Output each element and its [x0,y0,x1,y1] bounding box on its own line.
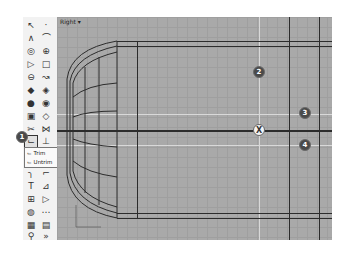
callout-3: 3 [299,107,311,119]
mesh-edit-icon[interactable]: ◇ [40,111,52,122]
profile-curve-geometry [57,17,332,240]
trim-flyout-menu: ⌙ Trim ⌙ Untrim [24,147,58,168]
callout-1: 1 [16,131,28,143]
analyze-icon[interactable]: ⚲ [25,231,37,242]
polygon-icon[interactable]: ▷ [25,59,37,70]
solid-icon[interactable]: ● [25,98,37,109]
callout-2: 2 [253,66,265,78]
circle-icon[interactable]: ◎ [25,46,37,57]
chamfer-icon[interactable]: ⌐ [40,168,52,179]
intersection-marker-icon: X [253,124,265,136]
flyout-item-trim[interactable]: ⌙ Trim [25,148,57,157]
point-icon[interactable]: · [40,20,52,31]
render-icon[interactable]: ◍ [25,207,37,218]
rectangle-icon[interactable]: □ [40,59,52,70]
trim-icon: ⌙ [27,150,32,156]
surface-icon[interactable]: ◆ [25,85,37,96]
surface-edit-icon[interactable]: ◈ [40,85,52,96]
offset-icon[interactable]: ⊿ [40,181,52,192]
select-icon[interactable]: ↖ [25,20,37,31]
more-icon[interactable]: » [40,231,52,242]
array-icon[interactable]: ⊞ [25,194,37,205]
move-icon[interactable]: T [25,181,37,192]
arc-icon[interactable]: ⊖ [25,72,37,83]
fillet-icon[interactable]: ╮ [25,168,37,179]
mesh-icon[interactable]: ▣ [25,111,37,122]
command-toolbar: ↖ · ∧ ⌒ ◎ ⊕ ▷ □ ⊖ ↝ ◆ ◈ ● ◉ ▣ ◇ ✂ ⋈ ⌙ ⊥ … [23,17,58,240]
ellipse-icon[interactable]: ⊕ [40,46,52,57]
flyout-item-untrim[interactable]: ⌙ Untrim [25,157,57,166]
flyout-item-label: Trim [34,150,46,156]
flyout-item-label: Untrim [34,159,53,165]
polyline-icon[interactable]: ∧ [25,33,37,44]
freeform-icon[interactable]: ↝ [40,72,52,83]
layer-icon[interactable]: ▦ [25,220,37,231]
callout-4: 4 [299,139,311,151]
dimension-icon[interactable]: ⋯ [40,207,52,218]
untrim-icon: ⌙ [27,159,32,165]
extend-icon[interactable]: ⊥ [40,136,52,147]
mirror-icon[interactable]: ▷ [40,194,52,205]
solid-edit-icon[interactable]: ◉ [40,98,52,109]
properties-icon[interactable]: ▤ [40,220,52,231]
right-viewport[interactable]: Right ▾ [57,17,332,240]
explode-icon[interactable]: ⋈ [40,124,52,135]
curve-icon[interactable]: ⌒ [40,33,52,44]
